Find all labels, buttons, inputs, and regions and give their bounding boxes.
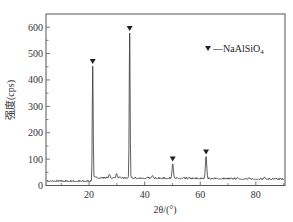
y-tick-label: 400 bbox=[28, 74, 43, 85]
x-tick-label: 80 bbox=[251, 189, 261, 200]
x-axis-title: 2θ/(°) bbox=[153, 204, 176, 216]
x-tick-label: 40 bbox=[140, 189, 150, 200]
y-tick-label: 0 bbox=[38, 180, 43, 191]
y-axis: 0100200300400500600 bbox=[28, 22, 50, 191]
y-tick-label: 300 bbox=[28, 101, 43, 112]
xrd-chart: 0100200300400500600 20406080 2θ/(°) 强度(c… bbox=[0, 0, 293, 222]
legend-triangle-icon bbox=[205, 46, 211, 51]
legend-label: —NaAlSiO4 bbox=[212, 43, 264, 56]
peak-markers bbox=[90, 26, 209, 162]
y-axis-title: 强度(cps) bbox=[4, 80, 17, 120]
y-tick-label: 200 bbox=[28, 127, 43, 138]
peak-triangle-icon bbox=[203, 149, 209, 154]
legend: —NaAlSiO4 bbox=[205, 43, 264, 56]
y-tick-label: 100 bbox=[28, 154, 43, 165]
peak-triangle-icon bbox=[90, 59, 96, 64]
y-tick-label: 600 bbox=[28, 22, 43, 33]
x-tick-label: 20 bbox=[84, 189, 94, 200]
xrd-line bbox=[47, 33, 284, 182]
x-tick-label: 60 bbox=[195, 189, 205, 200]
peak-triangle-icon bbox=[127, 26, 133, 31]
plot-frame bbox=[46, 14, 285, 186]
y-tick-label: 500 bbox=[28, 48, 43, 59]
x-axis: 20406080 bbox=[61, 182, 283, 200]
plot-area bbox=[47, 33, 284, 182]
peak-triangle-icon bbox=[170, 157, 176, 162]
